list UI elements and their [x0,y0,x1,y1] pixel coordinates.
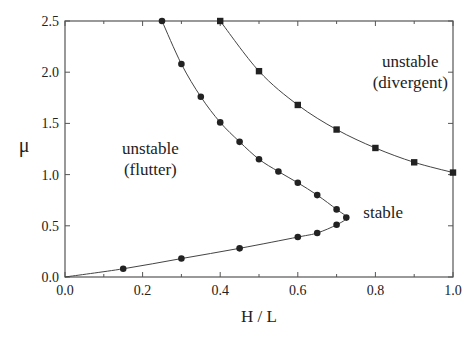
square-marker [217,18,223,24]
y-tick-label: 0.0 [42,270,60,285]
region-label: unstable [382,52,439,71]
square-marker [411,159,417,165]
x-tick-label: 0.4 [211,283,229,298]
x-tick-label: 0.2 [134,283,152,298]
series-line [65,21,346,277]
square-marker [372,145,378,151]
y-tick-label: 2.0 [42,65,60,80]
circle-marker [314,192,321,199]
circle-marker [217,119,224,126]
circle-marker [343,214,350,221]
square-marker [450,169,456,175]
circle-marker [314,230,321,237]
circle-marker [236,245,243,252]
region-label: (divergent) [373,73,448,92]
circle-marker [275,168,282,175]
y-axis-label: μ [19,134,30,157]
series-line [220,21,453,173]
circle-marker [120,266,127,273]
circle-marker [295,234,302,241]
annotations: unstable(flutter)unstable(divergent)stab… [122,52,448,222]
y-tick-label: 0.5 [42,219,60,234]
circle-marker [333,221,340,228]
x-tick-label: 0.8 [367,283,385,298]
circle-marker [178,255,185,262]
circle-marker [159,18,166,25]
x-tick-label: 1.0 [444,283,462,298]
square-marker [256,68,262,74]
region-label: stable [363,203,403,222]
circle-marker [178,61,185,68]
x-tick-label: 0.0 [56,283,74,298]
square-marker [333,126,339,132]
circle-marker [295,179,302,186]
circle-marker [236,139,243,146]
x-tick-label: 0.6 [289,283,307,298]
y-tick-label: 2.5 [42,14,60,29]
stability-chart: 0.00.20.40.60.81.00.00.51.01.52.02.5 uns… [0,0,475,340]
square-marker [295,102,301,108]
y-tick-label: 1.5 [42,116,60,131]
region-label: (flutter) [124,160,177,179]
circle-marker [198,93,205,100]
circle-marker [256,156,263,163]
x-axis-label: H / L [241,307,277,326]
circle-marker [333,206,340,213]
region-label: unstable [122,139,179,158]
y-tick-label: 1.0 [42,168,60,183]
